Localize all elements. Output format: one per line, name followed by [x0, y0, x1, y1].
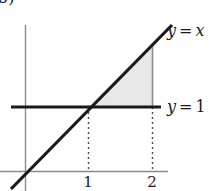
shaded-region — [88, 43, 152, 107]
label-y-eq-1-op: = — [179, 97, 192, 116]
label-y-eq-x-rhs: x — [195, 21, 204, 40]
label-y-eq-x-lhs: y — [167, 21, 176, 40]
label-y-eq-1-lhs: y — [167, 97, 176, 116]
x-tick-label-1: 1 — [78, 173, 98, 191]
label-line-y-equals-x: y=x — [167, 21, 204, 40]
label-line-y-equals-1: y=1 — [167, 97, 206, 116]
figure-panel: b) y=x y=1 1 2 — [0, 0, 211, 191]
label-y-eq-1-rhs: 1 — [195, 97, 205, 116]
x-tick-label-2: 2 — [142, 173, 162, 191]
label-y-eq-x-op: = — [179, 21, 192, 40]
